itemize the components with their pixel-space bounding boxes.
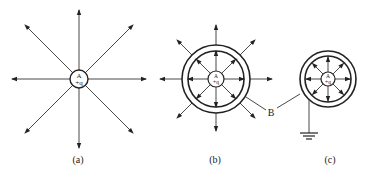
panel-a: A +q (a) [12,10,146,166]
svg-text:=: = [234,56,237,62]
panel-c: − − − − A +q (c) [300,51,356,166]
ground-symbol [300,100,318,139]
svg-text:−: − [326,53,329,59]
svg-text:−: − [347,76,350,82]
svg-text:=: = [194,95,197,101]
charge-b-label-bottom: +q [213,79,219,85]
svg-text:−: − [305,76,308,82]
caption-b: (b) [209,154,221,166]
caption-a: (a) [72,154,83,166]
shell-label-b: B [246,94,300,118]
svg-text:=: = [187,76,190,82]
svg-text:=: = [241,76,244,82]
svg-text:=: = [234,95,237,101]
charge-c-label-bottom: +q [325,79,331,85]
svg-text:=: = [214,49,217,55]
caption-c: (c) [324,154,335,166]
svg-text:−: − [326,98,329,104]
diagram-canvas: A +q (a) = = = [0,0,370,184]
charge-a-label-bottom: +q [75,79,83,87]
svg-text:=: = [194,56,197,62]
svg-text:=: = [214,103,217,109]
shell-label-text: B [268,107,275,118]
panel-b: = = = = = = = = A +q (b) [160,25,272,166]
